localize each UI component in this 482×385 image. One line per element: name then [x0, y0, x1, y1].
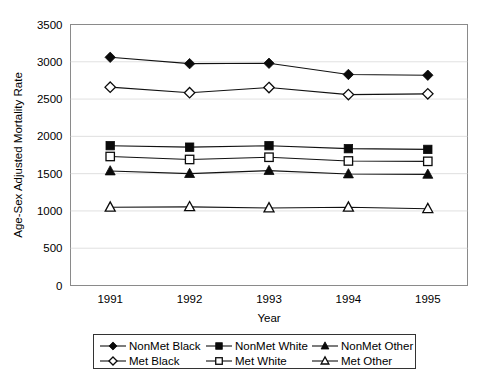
y-tick-label: 3000	[37, 56, 63, 68]
chart-canvas: 0500100015002000250030003500 19911992199…	[0, 0, 482, 385]
data-point-square	[106, 152, 114, 160]
data-point-triangle	[185, 168, 195, 177]
y-tick-label: 1500	[37, 168, 63, 180]
data-point-diamond	[184, 58, 194, 68]
y-tick-label: 0	[56, 280, 62, 292]
series-nonmet-white	[106, 141, 432, 153]
data-point-triangle	[343, 202, 353, 211]
data-point-triangle	[264, 165, 274, 174]
data-point-diamond	[423, 70, 433, 80]
data-point-square	[424, 157, 432, 165]
data-point-square	[106, 141, 114, 149]
mortality-rate-line-chart: 0500100015002000250030003500 19911992199…	[0, 0, 482, 385]
data-point-triangle	[105, 166, 115, 175]
series-met-white	[106, 152, 432, 165]
data-point-diamond	[343, 89, 353, 99]
data-point-diamond	[264, 58, 274, 68]
data-point-diamond	[105, 82, 115, 92]
legend-item-label: NonMet Other	[341, 340, 413, 352]
series-layer	[105, 52, 433, 212]
legend-item-label: NonMet Black	[129, 340, 201, 352]
y-tick-label: 500	[43, 242, 62, 254]
x-axis-tick-labels: 19911992199319941995	[97, 293, 440, 305]
legend-item-label: Met Black	[129, 355, 180, 367]
data-point-square	[265, 153, 273, 161]
x-tick-label: 1994	[336, 293, 362, 305]
data-point-diamond	[184, 88, 194, 98]
legend-item-label: Met White	[235, 355, 287, 367]
y-tick-label: 3500	[37, 19, 63, 31]
data-point-square	[185, 143, 193, 151]
data-point-diamond	[343, 69, 353, 79]
data-point-square	[424, 145, 432, 153]
x-tick-label: 1993	[256, 293, 282, 305]
data-point-square	[216, 343, 223, 350]
data-point-diamond	[423, 89, 433, 99]
data-point-triangle	[185, 201, 195, 210]
y-axis-tick-labels: 0500100015002000250030003500	[37, 19, 63, 292]
data-point-diamond	[105, 52, 115, 62]
x-tick-label: 1995	[415, 293, 441, 305]
legend-item-label: Met Other	[341, 355, 392, 367]
series-nonmet-other	[105, 165, 433, 178]
x-tick-label: 1991	[97, 293, 123, 305]
legend-item-label: NonMet White	[235, 340, 308, 352]
y-axis-title: Age-Sex Adjusted Mortality Rate	[12, 72, 24, 238]
data-point-triangle	[423, 203, 433, 212]
y-tick-label: 2500	[37, 93, 63, 105]
data-point-square	[216, 358, 223, 365]
series-met-black	[105, 82, 433, 100]
data-point-triangle	[105, 202, 115, 211]
y-tick-label: 1000	[37, 205, 63, 217]
data-point-square	[265, 141, 273, 149]
data-point-diamond	[264, 82, 274, 92]
y-tick-label: 2000	[37, 130, 63, 142]
x-axis-title: Year	[257, 312, 280, 324]
data-point-square	[185, 155, 193, 163]
series-nonmet-black	[105, 52, 433, 80]
data-point-triangle	[264, 203, 274, 212]
data-point-square	[344, 144, 352, 152]
x-tick-label: 1992	[177, 293, 203, 305]
chart-legend: NonMet BlackNonMet WhiteNonMet OtherMet …	[94, 335, 416, 369]
data-point-square	[344, 157, 352, 165]
